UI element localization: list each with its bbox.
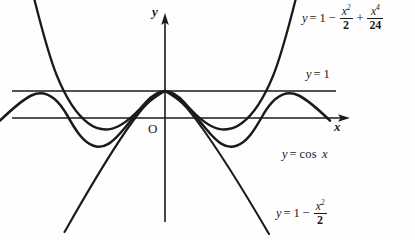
- figure-container: y x O y = 1 − x2 2 + x4 24 y = 1 y = cos…: [0, 0, 415, 240]
- quartic-term2-numerator: x4: [369, 5, 382, 17]
- parabola-equation-label: y = 1 − x2 2: [276, 200, 328, 227]
- parabola-equals: =: [283, 207, 290, 220]
- quartic-minus: −: [329, 12, 336, 25]
- constant-equals: =: [313, 68, 320, 81]
- cosine-lhs: y: [282, 148, 287, 161]
- x-axis: [12, 114, 350, 122]
- quartic-term1-exponent: 2: [347, 3, 351, 12]
- plot-svg: [0, 0, 415, 240]
- parabola-lhs: y: [276, 207, 281, 220]
- parabola-term-numerator: x2: [314, 200, 327, 212]
- parabola-minus: −: [303, 207, 310, 220]
- quartic-equals: =: [309, 12, 316, 25]
- quartic-term2-exponent: 4: [376, 3, 380, 12]
- quartic-term2-fraction: x4 24: [367, 5, 383, 32]
- quartic-term2-denominator: 24: [367, 19, 383, 32]
- constant-value: 1: [323, 68, 329, 81]
- cosine-equation-label: y = cos x: [282, 148, 327, 161]
- cosine-equals: =: [289, 148, 296, 161]
- parabola-term-denominator: 2: [315, 214, 325, 227]
- quartic-plus: +: [357, 12, 364, 25]
- origin-label: O: [148, 122, 157, 135]
- parabola-constant: 1: [293, 207, 299, 220]
- cosine-argument: x: [322, 148, 327, 161]
- constant-line-equation-label: y = 1: [306, 68, 330, 81]
- y-axis-label: y: [152, 5, 158, 18]
- constant-lhs: y: [306, 68, 311, 81]
- quartic-equation-label: y = 1 − x2 2 + x4 24: [302, 5, 384, 32]
- quartic-lhs: y: [302, 12, 307, 25]
- cosine-function-name: cos: [299, 148, 317, 161]
- quartic-term1-denominator: 2: [341, 19, 351, 32]
- quartic-constant: 1: [319, 12, 325, 25]
- x-axis-label: x: [334, 120, 340, 133]
- curve-parabola: [65, 91, 270, 234]
- parabola-term-fraction: x2 2: [314, 200, 327, 227]
- quartic-term1-fraction: x2 2: [340, 5, 353, 32]
- quartic-term1-numerator: x2: [340, 5, 353, 17]
- parabola-term-exponent: 2: [321, 198, 325, 207]
